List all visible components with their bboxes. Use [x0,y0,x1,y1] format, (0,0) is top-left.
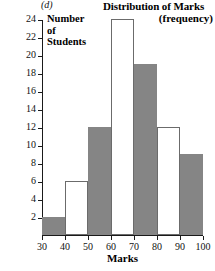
x-tick-label-60: 60 [100,241,122,252]
y-tick-8: 8 [38,164,42,165]
bar-70-80 [134,64,157,235]
y-tick-18: 18 [38,74,42,75]
plot-area: 24681012141618202224 30405060708090100 [42,20,203,236]
y-tick-20: 20 [38,56,42,57]
y-axis-line [42,20,43,236]
x-tick-label-40: 40 [54,241,76,252]
y-tick-16: 16 [38,92,42,93]
x-tick-label-30: 30 [31,241,53,252]
y-tick-label-18: 18 [26,67,36,78]
y-tick-22: 22 [38,38,42,39]
x-tick-label-50: 50 [77,241,99,252]
x-tick-label-70: 70 [123,241,145,252]
y-tick-label-14: 14 [26,103,36,114]
y-tick-label-10: 10 [26,139,36,150]
y-tick-label-20: 20 [26,49,36,60]
y-tick-label-6: 6 [31,175,36,186]
x-tick-30 [42,236,43,240]
panel-label: (d) [41,0,53,10]
y-tick-14: 14 [38,110,42,111]
y-tick-label-16: 16 [26,85,36,96]
x-tick-100 [203,236,204,240]
chart-title: Distribution of Marks [92,0,215,12]
y-tick-label-24: 24 [26,13,36,24]
y-tick-12: 12 [38,128,42,129]
x-tick-50 [88,236,89,240]
x-tick-40 [65,236,66,240]
bar-90-100 [180,154,203,235]
x-tick-label-100: 100 [192,241,214,252]
bar-80-90 [157,127,180,235]
y-tick-label-4: 4 [31,193,36,204]
y-tick-2: 2 [38,218,42,219]
y-tick-label-8: 8 [31,157,36,168]
y-tick-24: 24 [38,20,42,21]
x-axis-title: Marks [42,252,203,264]
x-tick-80 [157,236,158,240]
bar-60-70 [111,19,134,235]
y-tick-6: 6 [38,182,42,183]
bar-50-60 [88,127,111,235]
y-tick-label-22: 22 [26,31,36,42]
y-tick-label-12: 12 [26,121,36,132]
bar-30-40 [42,217,65,235]
x-tick-60 [111,236,112,240]
x-tick-label-90: 90 [169,241,191,252]
y-tick-4: 4 [38,200,42,201]
bar-40-50 [65,181,88,235]
x-tick-90 [180,236,181,240]
x-tick-70 [134,236,135,240]
y-tick-10: 10 [38,146,42,147]
histogram-figure: (d) Distribution of Marks (frequency) Nu… [0,0,215,271]
x-tick-label-80: 80 [146,241,168,252]
y-tick-label-2: 2 [31,211,36,222]
